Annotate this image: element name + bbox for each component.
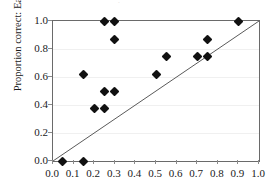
y-tick-mark	[48, 76, 52, 77]
x-tick-mark	[258, 160, 259, 164]
y-tick-label: 0.4	[18, 99, 48, 110]
x-axis-tick-marks	[52, 160, 258, 164]
chart-title-remnant: ·	[104, 0, 134, 6]
x-tick-mark	[176, 160, 177, 164]
y-tick-label: 0.2	[18, 127, 48, 138]
y-tick-mark	[48, 160, 52, 161]
x-tick-mark	[196, 160, 197, 164]
y-tick-mark	[48, 104, 52, 105]
x-tick-mark	[217, 160, 218, 164]
y-tick-mark	[48, 48, 52, 49]
x-tick-mark	[114, 160, 115, 164]
reference-line-layer	[53, 21, 259, 161]
y-tick-mark	[48, 132, 52, 133]
x-tick-mark	[93, 160, 94, 164]
y-tick-label: 0.6	[18, 71, 48, 82]
identity-reference-line	[53, 21, 259, 161]
y-tick-label: 0.8	[18, 43, 48, 54]
x-tick-mark	[237, 160, 238, 164]
x-tick-label: 1.0	[245, 167, 270, 179]
y-tick-label: 0.0	[18, 155, 48, 166]
scatter-plot-figure: · Proportion correct: Easy 0.00.20.40.60…	[0, 0, 270, 191]
x-tick-mark	[155, 160, 156, 164]
x-tick-mark	[134, 160, 135, 164]
x-tick-mark	[73, 160, 74, 164]
plot-area	[52, 20, 260, 162]
y-tick-label: 1.0	[18, 15, 48, 26]
x-tick-mark	[52, 160, 53, 164]
y-tick-mark	[48, 20, 52, 21]
x-axis-tick-labels: 0.00.10.20.30.40.50.60.70.80.91.0	[52, 167, 258, 181]
y-axis-tick-labels: 0.00.20.40.60.81.0	[18, 20, 48, 160]
